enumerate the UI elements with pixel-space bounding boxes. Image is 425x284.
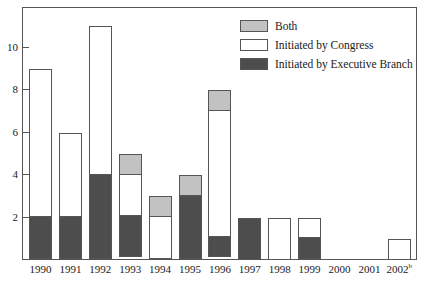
- chart-legend: BothInitiated by CongressInitiated by Ex…: [240, 17, 413, 74]
- bar-1998: [268, 218, 291, 261]
- bar-1996: [208, 90, 231, 260]
- legend-item-label: Both: [275, 20, 297, 32]
- legend-item-both[interactable]: Both: [240, 17, 413, 34]
- bar-segment-congress: [89, 26, 112, 175]
- bar-segment-congress: [268, 218, 291, 261]
- legend-swatch-icon: [240, 58, 268, 70]
- bar-segment-exec: [59, 216, 82, 259]
- bar-1994: [149, 196, 172, 260]
- bar-segment-congress: [298, 218, 321, 239]
- y-axis-label: 2: [0, 212, 18, 223]
- bar-segment-congress: [388, 239, 411, 260]
- legend-item-label: Initiated by Congress: [275, 39, 373, 51]
- legend-item-label: Initiated by Executive Branch: [275, 58, 413, 70]
- bar-segment-exec: [89, 174, 112, 259]
- bar-segment-exec: [119, 215, 142, 258]
- bar-segment-both: [119, 154, 142, 175]
- legend-swatch-icon: [240, 39, 268, 51]
- bar-2002: [388, 239, 411, 260]
- bar-segment-both: [208, 90, 231, 111]
- bar-segment-exec: [208, 236, 231, 257]
- stacked-bar-chart: 246810 199019911992199319941995199619971…: [0, 0, 425, 284]
- bar-1992: [89, 26, 112, 260]
- bar-1991: [59, 133, 82, 261]
- bar-segment-congress: [29, 69, 52, 218]
- bar-segment-both: [179, 175, 202, 196]
- bar-1997: [238, 218, 261, 261]
- x-axis-label-2002: 2002b: [379, 263, 419, 275]
- y-axis-label: 4: [0, 169, 18, 180]
- legend-item-exec[interactable]: Initiated by Executive Branch: [240, 55, 413, 72]
- bar-segment-exec: [29, 216, 52, 259]
- legend-item-congress[interactable]: Initiated by Congress: [240, 36, 413, 53]
- bar-segment-congress: [119, 174, 142, 217]
- bar-segment-exec: [238, 218, 261, 261]
- bar-segment-exec: [179, 195, 202, 259]
- bar-1990: [29, 69, 52, 260]
- bar-segment-congress: [59, 133, 82, 218]
- y-axis-label: 6: [0, 127, 18, 138]
- bar-1999: [298, 218, 321, 261]
- y-axis-label: 10: [0, 42, 18, 53]
- x-axis-label-footnote: b: [409, 262, 413, 270]
- bar-segment-both: [149, 196, 172, 217]
- y-axis-label: 8: [0, 84, 18, 95]
- bar-1995: [179, 175, 202, 260]
- bar-segment-congress: [208, 110, 231, 238]
- bar-segment-exec: [298, 237, 321, 258]
- bar-segment-congress: [149, 216, 172, 259]
- bar-1993: [119, 154, 142, 260]
- legend-swatch-icon: [240, 20, 268, 32]
